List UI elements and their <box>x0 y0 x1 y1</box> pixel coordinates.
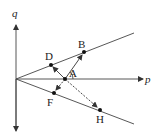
p-axis-label: p <box>144 73 151 85</box>
point-d <box>49 63 53 67</box>
point-a <box>63 77 67 81</box>
label-a: A <box>69 67 77 79</box>
point-b <box>82 50 86 54</box>
label-h: H <box>96 113 104 125</box>
label-d: D <box>45 50 53 62</box>
arrow-a-to-d <box>53 67 65 79</box>
point-f <box>52 91 56 95</box>
label-b: B <box>78 38 85 50</box>
q-axis-label: q <box>12 7 18 19</box>
label-f: F <box>47 96 53 108</box>
diagram-canvas: q p A B D F H <box>0 0 158 135</box>
diagram-svg: q p A B D F H <box>0 0 158 135</box>
point-h <box>98 108 102 112</box>
lower-ray <box>16 79 134 124</box>
arrow-a-to-f <box>56 79 65 90</box>
arrow-a-to-h <box>65 79 97 107</box>
